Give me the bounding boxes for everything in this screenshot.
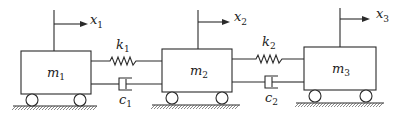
ground-3 — [295, 103, 384, 107]
x2-label: x2 — [234, 9, 247, 27]
x1-label: x1 — [90, 12, 103, 30]
k2-label: k2 — [262, 34, 276, 51]
damper-c1: c1 — [91, 78, 162, 109]
mass-2-wheel-left — [166, 92, 178, 104]
arrow-right-icon — [80, 21, 88, 27]
c2-label: c2 — [265, 90, 278, 107]
spring-k1: k1 — [91, 37, 162, 65]
mass-3-wheel-left — [309, 90, 321, 102]
mass-3-wheel-right — [360, 90, 372, 102]
spring-k2: k2 — [232, 34, 304, 63]
mass-2-wheel-right — [216, 92, 228, 104]
x3-label: x3 — [376, 6, 389, 24]
ground-2 — [151, 105, 240, 109]
damper-c2: c2 — [232, 76, 304, 107]
mass-2: m2 — [162, 49, 232, 104]
mass-1-wheel-right — [74, 94, 86, 106]
ground-1 — [12, 106, 97, 110]
mass-1: m1 — [21, 51, 91, 106]
c1-label: c1 — [119, 92, 132, 109]
displacement-x1: x1 — [54, 10, 103, 51]
displacement-x2: x2 — [198, 9, 247, 49]
mass-1-wheel-left — [26, 94, 38, 106]
mass-spring-damper-diagram: m1 x1 k1 c1 m2 x2 k2 — [0, 0, 401, 116]
mass-3: m3 — [304, 47, 376, 102]
arrow-right-icon — [362, 16, 370, 22]
displacement-x3: x3 — [340, 6, 389, 47]
k1-label: k1 — [116, 37, 130, 54]
arrow-right-icon — [222, 19, 230, 25]
